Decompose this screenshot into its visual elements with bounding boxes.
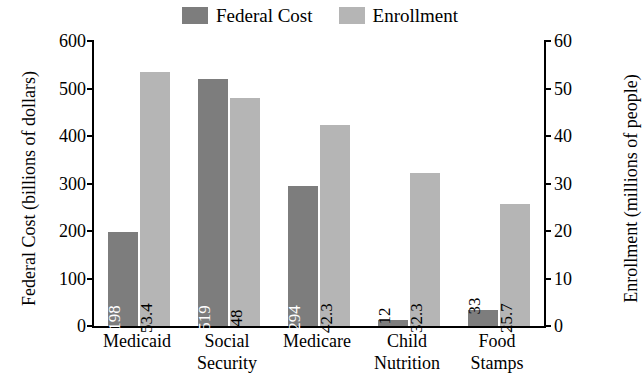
bar-enrollment: 25.7 (500, 204, 530, 326)
bar-enrollment: 32.3 (410, 173, 440, 326)
bar-federal-cost: 519 (198, 79, 228, 326)
bar-group: 1232.3 (378, 41, 440, 326)
bar-group: 51948 (198, 41, 260, 326)
y-axis-right-tick-mark (544, 40, 551, 42)
bar-value-label: 33 (466, 298, 483, 315)
x-axis-tick-label: FoodStamps (452, 330, 542, 374)
y-axis-left-tick-label: 600 (26, 32, 86, 50)
legend-item-enrollment: Enrollment (339, 6, 458, 25)
x-axis-tick-labels: MedicaidSocialSecurityMedicareChildNutri… (92, 330, 546, 388)
y-axis-right-tick-mark (544, 135, 551, 137)
bar-value-label: 25.7 (498, 303, 515, 333)
legend-label-enrollment: Enrollment (373, 6, 458, 25)
y-axis-right-tick-label: 10 (554, 270, 604, 288)
bar-enrollment: 53.4 (140, 72, 170, 326)
bar-value-label: 294 (286, 305, 303, 331)
y-axis-left-tick-mark (87, 40, 94, 42)
y-axis-left-tick-mark (87, 135, 94, 137)
y-axis-right-tick-label: 30 (554, 175, 604, 193)
bar-federal-cost: 12 (378, 320, 408, 326)
y-axis-right-tick-mark (544, 230, 551, 232)
bar-value-label: 12 (376, 308, 393, 325)
y-axis-right-tick-mark (544, 183, 551, 185)
y-axis-right-tick-label: 60 (554, 32, 604, 50)
bar-federal-cost: 33 (468, 310, 498, 326)
x-axis-tick-label-line: Child (362, 330, 452, 352)
x-axis-tick-label: SocialSecurity (182, 330, 272, 374)
y-axis-left-tick-mark (87, 88, 94, 90)
legend-label-federal-cost: Federal Cost (216, 6, 313, 25)
bar-value-label: 42.3 (318, 303, 335, 333)
bar-group: 29442.3 (288, 41, 350, 326)
bar-federal-cost: 294 (288, 186, 318, 326)
x-axis-tick-label: Medicare (272, 330, 362, 352)
x-axis-tick-label-line: Stamps (452, 352, 542, 374)
y-axis-right-tick-mark (544, 88, 551, 90)
legend-swatch-federal-cost (182, 7, 208, 24)
y-axis-right-tick-label: 50 (554, 80, 604, 98)
y-axis-right-tick-label: 40 (554, 127, 604, 145)
x-axis-tick-label-line: Medicare (272, 330, 362, 352)
legend-swatch-enrollment (339, 7, 365, 24)
x-axis-tick-label: Medicaid (92, 330, 182, 352)
bar-group: 19853.4 (108, 41, 170, 326)
y-axis-left-tick-label: 400 (26, 127, 86, 145)
chart-legend: Federal Cost Enrollment (0, 0, 640, 30)
y-axis-left-tick-label: 500 (26, 80, 86, 98)
bar-federal-cost: 198 (108, 232, 138, 326)
y-axis-right-tick-mark (544, 278, 551, 280)
y-axis-left-tick-label: 0 (26, 317, 86, 335)
y-axis-left-tick-label: 300 (26, 175, 86, 193)
bar-value-label: 32.3 (408, 303, 425, 333)
bar-enrollment: 42.3 (320, 125, 350, 326)
bar-value-label: 53.4 (138, 303, 155, 333)
y-axis-right-tick-mark (544, 325, 551, 327)
plot-inner: 0100200300400500600010203040506019853.45… (94, 41, 544, 326)
x-axis-tick-label-line: Nutrition (362, 352, 452, 374)
y-axis-left-tick-label: 200 (26, 222, 86, 240)
y-axis-left-tick-mark (87, 278, 94, 280)
y-axis-left-tick-label: 100 (26, 270, 86, 288)
x-axis-tick-label-line: Food (452, 330, 542, 352)
plot-area: 0100200300400500600010203040506019853.45… (92, 41, 546, 328)
x-axis-tick-label-line: Social (182, 330, 272, 352)
bar-enrollment: 48 (230, 98, 260, 326)
bar-value-label: 48 (228, 310, 245, 327)
y-axis-left-tick-mark (87, 325, 94, 327)
y-axis-left-tick-mark (87, 230, 94, 232)
bar-value-label: 198 (106, 305, 123, 331)
bar-group: 3325.7 (468, 41, 530, 326)
y-axis-left-tick-mark (87, 183, 94, 185)
legend-item-federal-cost: Federal Cost (182, 6, 313, 25)
y-axis-right-title: Enrollment (millions of people) (621, 39, 642, 339)
y-axis-right-tick-label: 0 (554, 317, 604, 335)
x-axis-tick-label-line: Medicaid (92, 330, 182, 352)
y-axis-right-tick-label: 20 (554, 222, 604, 240)
x-axis-tick-label-line: Security (182, 352, 272, 374)
bar-value-label: 519 (196, 305, 213, 331)
x-axis-tick-label: ChildNutrition (362, 330, 452, 374)
